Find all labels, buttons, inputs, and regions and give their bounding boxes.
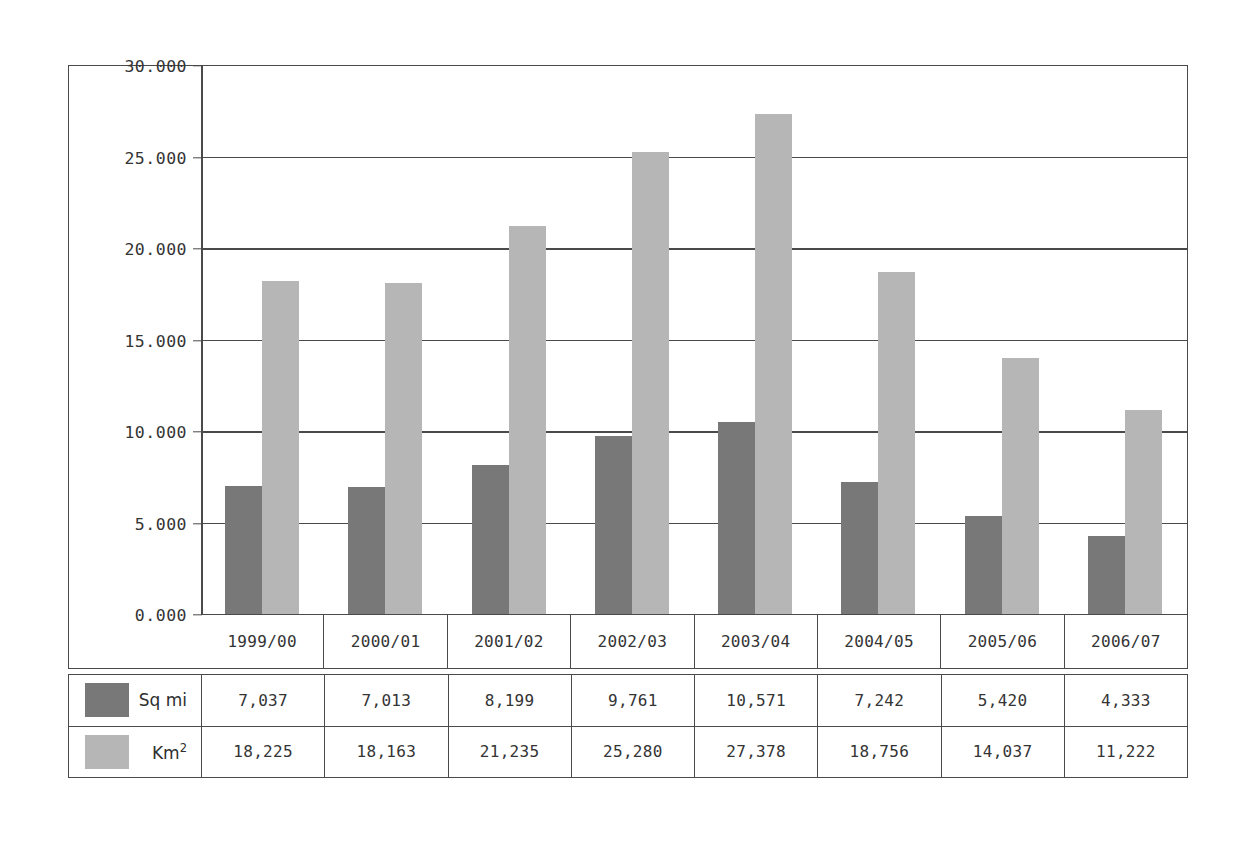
table-row: Sq mi7,0377,0138,1999,76110,5717,2425,42… — [69, 675, 1187, 726]
bar-km2 — [878, 272, 915, 615]
table-cell-value: 18,756 — [817, 727, 940, 778]
bar-group — [448, 66, 571, 615]
bar-sq-mi — [225, 486, 262, 615]
bar-group — [1064, 66, 1187, 615]
legend-label-base: Km — [152, 743, 180, 763]
bar-km2 — [632, 152, 669, 615]
bar-km2 — [1002, 358, 1039, 615]
plot-frame: 30.00025.00020.00015.00010.0005.0000.000… — [68, 65, 1188, 669]
bar-sq-mi — [965, 516, 1002, 615]
table-cell-value: 8,199 — [448, 675, 571, 726]
table-cell-value: 7,037 — [201, 675, 324, 726]
y-axis-tick-label: 30.000 — [124, 57, 187, 76]
bar-group — [324, 66, 447, 615]
table-row: Km218,22518,16321,23525,28027,37818,7561… — [69, 726, 1187, 778]
legend-swatch-sq-mi — [85, 683, 129, 717]
bar-group — [941, 66, 1064, 615]
y-axis-tick-label: 25.000 — [124, 148, 187, 167]
legend-label-superscript: 2 — [180, 741, 187, 755]
y-axis-tick-label: 20.000 — [124, 240, 187, 259]
category-label: 2003/04 — [694, 615, 817, 668]
table-cell-value: 7,242 — [817, 675, 940, 726]
table-cell-value: 18,163 — [324, 727, 447, 778]
value-cells: 7,0377,0138,1999,76110,5717,2425,4204,33… — [201, 675, 1187, 726]
bar-sq-mi — [348, 487, 385, 615]
bar-chart-figure: 30.00025.00020.00015.00010.0005.0000.000… — [68, 65, 1188, 778]
category-label: 1999/00 — [201, 615, 323, 668]
table-cell-value: 25,280 — [571, 727, 694, 778]
bar-km2 — [509, 226, 546, 615]
y-axis-tick-mark — [193, 523, 202, 524]
bar-sq-mi — [472, 465, 509, 615]
table-cell-value: 10,571 — [694, 675, 817, 726]
category-label: 2002/03 — [570, 615, 693, 668]
category-label: 2005/06 — [940, 615, 1063, 668]
bar-km2 — [262, 281, 299, 615]
category-label: 2000/01 — [323, 615, 446, 668]
y-axis-labels: 30.00025.00020.00015.00010.0005.0000.000 — [69, 66, 201, 615]
category-label: 2004/05 — [817, 615, 940, 668]
table-cell-value: 7,013 — [324, 675, 447, 726]
legend-swatch-km2 — [85, 735, 129, 769]
category-header-row: 1999/002000/012001/022002/032003/042004/… — [201, 615, 1187, 668]
bar-km2 — [385, 283, 422, 615]
bar-groups — [201, 66, 1187, 615]
data-table: Sq mi7,0377,0138,1999,76110,5717,2425,42… — [68, 674, 1188, 778]
table-cell-value: 27,378 — [694, 727, 817, 778]
y-axis-tick-mark — [193, 157, 202, 158]
table-cell-value: 18,225 — [201, 727, 324, 778]
y-axis-tick-mark — [193, 614, 202, 615]
table-cell-value: 21,235 — [448, 727, 571, 778]
table-cell-value: 14,037 — [941, 727, 1064, 778]
y-axis-tick-mark — [193, 65, 202, 66]
bar-sq-mi — [595, 436, 632, 615]
y-axis-tick-mark — [193, 248, 202, 249]
legend-cell: Sq mi — [69, 675, 201, 726]
bar-km2 — [755, 114, 792, 615]
bar-sq-mi — [841, 482, 878, 615]
table-cell-value: 9,761 — [571, 675, 694, 726]
category-label: 2001/02 — [447, 615, 570, 668]
y-axis-tick-mark — [193, 431, 202, 432]
legend-label: Km2 — [129, 741, 187, 763]
legend-label: Sq mi — [129, 690, 187, 710]
y-axis-tick-label: 0.000 — [135, 606, 187, 625]
bar-group — [571, 66, 694, 615]
bar-group — [817, 66, 940, 615]
table-cell-value: 4,333 — [1064, 675, 1187, 726]
table-cell-value: 11,222 — [1064, 727, 1187, 778]
bar-km2 — [1125, 410, 1162, 615]
bar-group — [694, 66, 817, 615]
category-label: 2006/07 — [1064, 615, 1187, 668]
plot-area — [201, 66, 1187, 615]
bar-sq-mi — [718, 422, 755, 615]
bar-group — [201, 66, 324, 615]
y-axis-tick-label: 10.000 — [124, 423, 187, 442]
table-cell-value: 5,420 — [941, 675, 1064, 726]
legend-cell: Km2 — [69, 727, 201, 778]
y-axis-tick-label: 5.000 — [135, 514, 187, 533]
y-axis-tick-mark — [193, 340, 202, 341]
value-cells: 18,22518,16321,23525,28027,37818,75614,0… — [201, 727, 1187, 778]
bar-sq-mi — [1088, 536, 1125, 615]
y-axis-tick-label: 15.000 — [124, 331, 187, 350]
